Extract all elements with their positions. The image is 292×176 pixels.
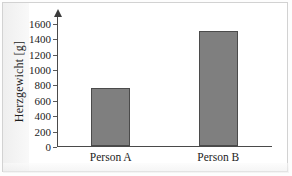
bar-chart-figure: Herzgewicht [g] 020040060080010001200140… bbox=[0, 0, 292, 176]
y-tick-label: 1000 bbox=[29, 64, 51, 75]
y-axis-arrow-icon bbox=[54, 9, 62, 17]
y-tick-label: 600 bbox=[35, 95, 52, 106]
plot-area: 02004006008001000120014001600 bbox=[57, 16, 272, 147]
y-tick-mark bbox=[53, 70, 57, 71]
y-tick-label: 1600 bbox=[29, 18, 51, 29]
y-axis-line bbox=[57, 16, 58, 147]
x-label-person-b: Person B bbox=[197, 152, 239, 164]
x-label-person-a: Person A bbox=[90, 152, 132, 164]
y-tick-label: 1400 bbox=[29, 34, 51, 45]
y-tick-mark bbox=[53, 101, 57, 102]
y-tick-mark bbox=[53, 39, 57, 40]
y-tick-label: 200 bbox=[35, 126, 52, 137]
bar-person-a bbox=[91, 88, 130, 146]
y-tick-mark bbox=[53, 55, 57, 56]
y-tick-label: 400 bbox=[35, 111, 52, 122]
scan-shading-bottom bbox=[3, 163, 289, 173]
y-tick-label: 0 bbox=[46, 142, 52, 153]
x-axis-line bbox=[57, 146, 272, 147]
bar-person-b bbox=[199, 31, 238, 146]
y-axis-title: Herzgewicht [g] bbox=[11, 16, 27, 147]
y-tick-mark bbox=[53, 24, 57, 25]
y-tick-mark bbox=[53, 132, 57, 133]
y-tick-label: 800 bbox=[35, 80, 52, 91]
y-tick-label: 1200 bbox=[29, 49, 51, 60]
plot-background bbox=[57, 16, 272, 147]
y-tick-mark bbox=[53, 147, 57, 148]
y-tick-mark bbox=[53, 85, 57, 86]
y-tick-mark bbox=[53, 116, 57, 117]
